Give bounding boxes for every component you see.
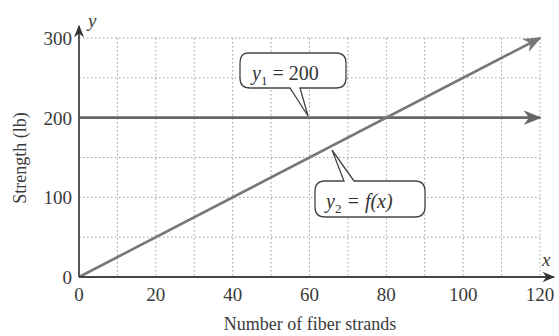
- y-axis-variable: y: [86, 10, 97, 31]
- x-tick-label: 0: [74, 284, 84, 305]
- x-axis-title: Number of fiber strands: [224, 314, 396, 334]
- y-tick-label: 100: [44, 187, 73, 208]
- y-tick-label: 0: [63, 267, 73, 288]
- x-tick-label: 20: [146, 284, 165, 305]
- x-tick-label: 40: [223, 284, 242, 305]
- x-tick-label: 60: [300, 284, 319, 305]
- callout-y1: y1 = 200: [240, 53, 346, 116]
- y-tick-label: 300: [44, 28, 73, 49]
- x-axis-variable: x: [541, 249, 551, 270]
- x-tick-label: 120: [526, 284, 555, 305]
- x-tick-label: 100: [449, 284, 478, 305]
- y-axis-title: Strength (lb): [10, 112, 31, 204]
- x-tick-label: 80: [377, 284, 396, 305]
- y-tick-label: 200: [44, 108, 73, 129]
- chart: 0204060801001200100200300 y x Strength (…: [0, 0, 559, 336]
- callout-y2: y2 = f(x): [315, 150, 425, 217]
